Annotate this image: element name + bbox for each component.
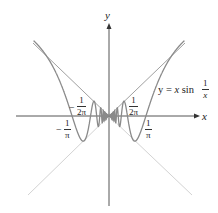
- plot-area: [0, 0, 218, 213]
- y-axis-label: y: [105, 10, 110, 21]
- y-axis-arrow-icon: [107, 23, 112, 29]
- figure: y x y = x sin 1 x − 1 π − 1 2π 1 2π 1 π: [0, 0, 218, 213]
- tick-1-over-pi: 1 π: [145, 119, 152, 140]
- tick-neg-1-over-pi: 1 π: [64, 119, 71, 140]
- x-axis-arrow-icon: [194, 114, 200, 119]
- curve-label: y = x sin: [158, 85, 194, 96]
- curve-label-fraction: 1 x: [202, 79, 209, 100]
- tick-neg-1-over-pi-sign: −: [56, 124, 62, 135]
- tick-1-over-2pi: 1 2π: [129, 96, 138, 117]
- tick-neg-1-over-2pi: 1 2π: [77, 96, 86, 117]
- tick-neg-1-over-2pi-sign: −: [69, 102, 75, 113]
- x-axis-label: x: [202, 111, 207, 122]
